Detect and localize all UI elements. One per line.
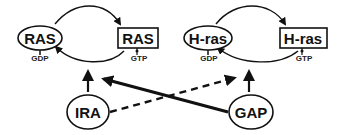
- gdp-label: GDP: [31, 54, 49, 63]
- activation-arrow: [55, 6, 120, 24]
- left-cycle: RAS GDP RAS GTP: [18, 6, 158, 63]
- ras-gap-diagram: RAS GDP RAS GTP H-ras GDP H-ras GTP IRA …: [0, 0, 339, 135]
- h-ras-active-label: H-ras: [284, 30, 322, 47]
- gap-label: GAP: [235, 104, 268, 121]
- right-cycle: H-ras GDP H-ras GTP: [184, 6, 327, 63]
- gap-to-ras-arrow: [104, 79, 228, 112]
- inactivation-arrow: [56, 47, 124, 62]
- ira-label: IRA: [75, 104, 101, 121]
- gtp-label: GTP: [296, 54, 313, 63]
- gdp-label: GDP: [200, 54, 218, 63]
- inactivation-arrow: [218, 48, 298, 62]
- gtp-label: GTP: [131, 54, 148, 63]
- ras-active-label: RAS: [122, 30, 154, 47]
- gap-node: GAP: [229, 95, 273, 129]
- activation-arrow: [216, 6, 285, 24]
- ras-inactive-label: RAS: [24, 30, 56, 47]
- ira-node: IRA: [67, 95, 109, 129]
- h-ras-inactive-label: H-ras: [189, 30, 227, 47]
- ira-to-h-ras-dashed-arrow: [110, 78, 234, 112]
